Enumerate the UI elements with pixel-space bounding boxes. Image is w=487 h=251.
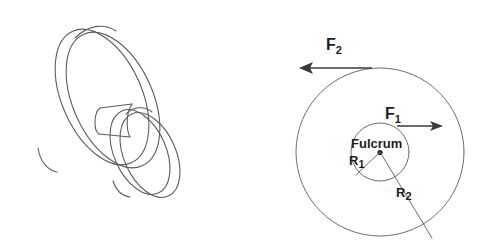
radius-1-label: R1 — [349, 153, 365, 170]
radius-2-label: R2 — [396, 185, 412, 202]
figure-canvas: F2 F1 Fulcrum R1 R2 — [0, 0, 487, 251]
force-2-label: F2 — [326, 36, 342, 56]
axle-bottom-edge — [99, 134, 130, 137]
axle-left-cap — [95, 108, 100, 134]
large-disc-front-face — [47, 18, 179, 182]
figure-root: F2 F1 Fulcrum R1 R2 — [0, 0, 487, 251]
force-1-arrow — [397, 121, 443, 131]
large-disc-back-face — [36, 15, 168, 179]
force-2-arrow — [299, 62, 372, 74]
wheel-and-axle-schematic: F2 F1 Fulcrum R1 R2 — [296, 36, 464, 238]
small-disc-front-face — [108, 103, 192, 206]
fulcrum-label: Fulcrum — [351, 136, 402, 151]
large-disc-rim-bottom — [38, 148, 57, 172]
wheel-and-axle-3d-drawing — [36, 15, 192, 207]
axle-top-edge — [100, 104, 132, 108]
small-disc-rim-bottom — [113, 181, 130, 197]
force-1-label: F1 — [385, 105, 401, 125]
small-disc-back-face — [98, 100, 182, 203]
